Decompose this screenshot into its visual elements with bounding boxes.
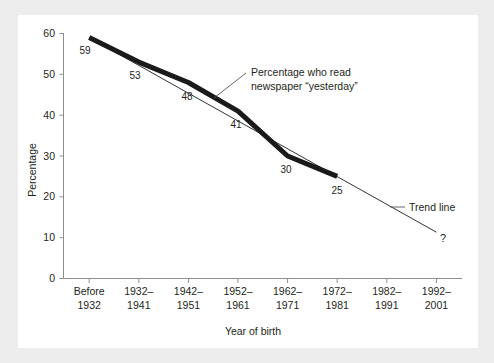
y-tick-label-60: 60 xyxy=(43,27,55,39)
x-tick-label-6-line1: 1982– xyxy=(372,285,401,297)
y-tick-label-30: 30 xyxy=(43,150,55,162)
y-axis-ticks xyxy=(60,34,64,279)
x-tick-label-6-line2: 1991 xyxy=(375,299,399,311)
point-label-1: 53 xyxy=(129,70,141,81)
x-tick-label-5-line1: 1972– xyxy=(323,285,352,297)
x-tick-label-7-line2: 2001 xyxy=(425,299,449,311)
chart-figure: 60 50 40 30 20 10 0 Percentage Before 19… xyxy=(0,0,494,363)
y-tick-label-50: 50 xyxy=(43,68,55,80)
x-tick-label-4-line2: 1971 xyxy=(276,299,300,311)
x-tick-label-5-line2: 1981 xyxy=(326,299,350,311)
x-tick-label-2-line2: 1951 xyxy=(177,299,201,311)
x-tick-label-3-line2: 1961 xyxy=(226,299,250,311)
unknown-endpoint-marker: ? xyxy=(440,232,446,244)
series-annotation-line1: Percentage who read xyxy=(251,66,351,78)
point-label-5: 25 xyxy=(331,185,343,196)
y-axis-title: Percentage xyxy=(26,143,38,197)
point-label-4: 30 xyxy=(280,164,292,175)
x-tick-label-0-line1: Before xyxy=(74,285,105,297)
x-axis-title: Year of birth xyxy=(225,325,281,337)
x-tick-label-4-line1: 1962– xyxy=(273,285,302,297)
x-tick-label-3-line1: 1952– xyxy=(223,285,252,297)
x-tick-label-0-line2: 1932 xyxy=(78,299,102,311)
chart-canvas: 60 50 40 30 20 10 0 Percentage Before 19… xyxy=(0,0,494,363)
x-tick-label-7-line1: 1992– xyxy=(422,285,451,297)
series-annotation-line2: newspaper “yesterday” xyxy=(251,80,358,92)
x-tick-label-1-line2: 1941 xyxy=(127,299,151,311)
y-tick-label-40: 40 xyxy=(43,109,55,121)
point-label-2: 48 xyxy=(181,91,193,102)
x-axis-tick-labels: Before 1932 1932– 1941 1942– 1951 1952– … xyxy=(74,285,451,311)
trend-annotation-label: Trend line xyxy=(409,201,455,213)
y-tick-label-0: 0 xyxy=(49,272,55,284)
x-tick-label-1-line1: 1932– xyxy=(124,285,153,297)
point-label-0: 59 xyxy=(79,45,91,56)
y-tick-label-20: 20 xyxy=(43,190,55,202)
series-annotation-leader-line xyxy=(214,73,246,98)
point-label-3: 41 xyxy=(230,119,242,130)
x-tick-label-2-line1: 1942– xyxy=(174,285,203,297)
y-tick-label-10: 10 xyxy=(43,231,55,243)
y-axis-tick-labels: 60 50 40 30 20 10 0 xyxy=(43,27,55,284)
x-axis-ticks xyxy=(89,279,436,284)
